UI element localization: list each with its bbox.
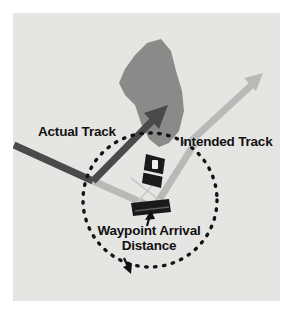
label-intended-track: Intended Track bbox=[180, 135, 272, 150]
label-actual-track: Actual Track bbox=[38, 125, 116, 140]
diagram-canvas: Actual Track Intended Track Waypoint Arr… bbox=[13, 13, 280, 301]
diagram-graphics bbox=[13, 13, 280, 301]
label-waypoint-arrival-line1: Waypoint Arrival bbox=[97, 223, 200, 238]
figure-frame: Actual Track Intended Track Waypoint Arr… bbox=[0, 0, 295, 330]
aircraft-symbol-upper bbox=[142, 154, 165, 188]
label-waypoint-arrival-distance: Waypoint Arrival Distance bbox=[89, 224, 209, 253]
label-waypoint-arrival-line2: Distance bbox=[89, 239, 209, 254]
